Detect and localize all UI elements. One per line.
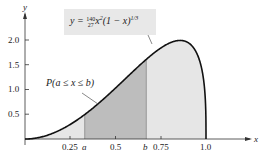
x-tick-0.5: 0.5 bbox=[110, 142, 121, 152]
x-axis-arrow-icon bbox=[245, 137, 252, 141]
y-tick-0.5: 0.5 bbox=[8, 109, 19, 119]
y-tick-1.5: 1.5 bbox=[8, 60, 19, 70]
x-axis-label: x bbox=[254, 134, 258, 144]
probability-label: P(a ≤ x ≤ b) bbox=[46, 78, 94, 88]
y-axis-label: y bbox=[23, 2, 27, 12]
y-tick-2.0: 2.0 bbox=[8, 35, 19, 45]
label-pointer bbox=[82, 93, 98, 104]
equation-pointer bbox=[148, 35, 152, 44]
x-tick-0.75: 0.75 bbox=[153, 142, 169, 152]
probability-area bbox=[85, 59, 147, 139]
y-axis-arrow-icon bbox=[23, 12, 27, 19]
equation-label: y = 14027x2(1 − x)1/3 bbox=[70, 15, 138, 28]
x-tick-b: b bbox=[143, 142, 148, 152]
x-tick-1.0: 1.0 bbox=[200, 142, 211, 152]
y-tick-1.0: 1.0 bbox=[8, 84, 19, 94]
x-tick-a: a bbox=[82, 142, 87, 152]
x-tick-0.25: 0.25 bbox=[62, 142, 78, 152]
chart: y = 14027x2(1 − x)1/3 y x 0.5 1.0 1.5 2.… bbox=[0, 0, 261, 154]
